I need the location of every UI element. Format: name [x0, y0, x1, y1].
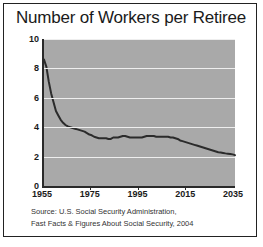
gridline: [44, 157, 235, 158]
y-axis-tick-label: 6: [9, 94, 39, 103]
x-axis-tick-label: 2035: [213, 190, 253, 199]
gridline: [44, 39, 235, 40]
y-axis-tick-label: 2: [9, 153, 39, 162]
x-axis-tick-label: 1995: [118, 190, 158, 199]
x-axis-tick-mark: [138, 186, 139, 190]
chart-figure: Number of Workers per Retiree 0246810195…: [3, 3, 257, 237]
x-axis-tick-label: 1955: [22, 190, 62, 199]
plot-wrapper: 024681019551975199520152035: [4, 4, 258, 238]
x-axis-tick-label: 1975: [70, 190, 110, 199]
y-axis-tick-label: 8: [9, 64, 39, 73]
plot-area: [42, 39, 235, 188]
source-note: Source: U.S. Social Security Administrat…: [31, 206, 241, 229]
x-axis-tick-label: 2015: [165, 190, 205, 199]
x-axis-tick-mark: [90, 186, 91, 190]
source-line-1: Source: U.S. Social Security Administrat…: [31, 206, 241, 218]
source-line-2: Fast Facts & Figures About Social Securi…: [31, 218, 241, 230]
series-line-workers-per-retiree: [44, 60, 235, 156]
y-axis-tick-label: 10: [9, 35, 39, 44]
gridline: [44, 68, 235, 69]
line-series: [44, 39, 235, 186]
y-axis-tick-label: 4: [9, 123, 39, 132]
gridline: [44, 127, 235, 128]
gridline: [44, 98, 235, 99]
x-axis-tick-mark: [185, 186, 186, 190]
